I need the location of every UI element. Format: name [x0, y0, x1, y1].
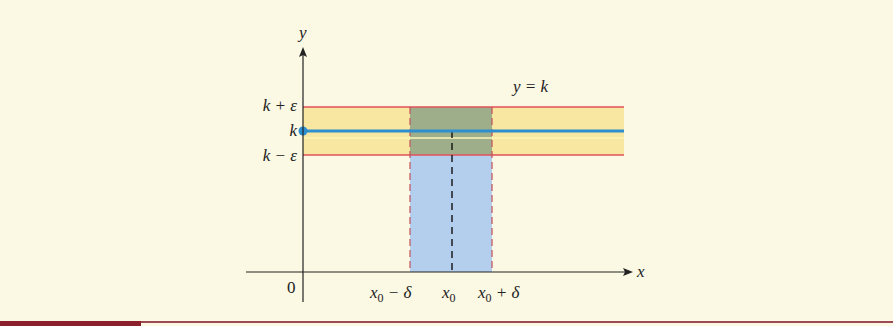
x0-minus-delta-label: x0 − δ [369, 283, 413, 305]
x-axis-label: x [636, 262, 645, 281]
k-plus-epsilon-label: k + ε [263, 96, 298, 115]
x0-plus-delta-label: x0 + δ [477, 283, 521, 305]
delta-band [410, 155, 492, 272]
origin-label: 0 [287, 278, 296, 297]
curve-label: y = k [511, 77, 549, 96]
footer-accent-bar [0, 321, 141, 326]
k-label: k [289, 121, 297, 140]
epsilon-delta-diagram: y x 0 k + ε k k − ε y = k x0 − δ x0 x0 +… [0, 0, 893, 326]
k-minus-epsilon-label: k − ε [263, 146, 298, 165]
footer-rule [141, 321, 893, 323]
x0-label: x0 [441, 283, 456, 305]
y-axis-label: y [297, 23, 307, 42]
